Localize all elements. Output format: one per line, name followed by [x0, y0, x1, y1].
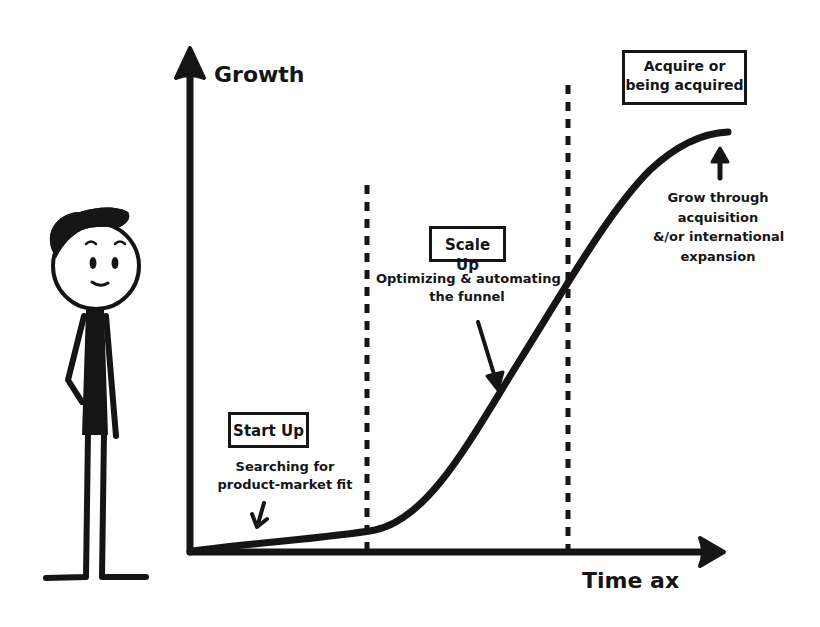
stage-startup-description: Searching for product-market fit — [200, 458, 370, 493]
eyebrow-right-icon — [115, 242, 125, 245]
stage-scaleup-description-line-1: Optimizing & automating — [376, 270, 558, 288]
leg-right-icon — [102, 433, 146, 577]
arm-left-icon — [68, 316, 84, 402]
stage-startup-title-box: Start Up — [228, 412, 309, 448]
stage-acquire-description-line-4: expansion — [653, 247, 783, 267]
stage-acquire-title-box: Acquire or being acquired — [622, 50, 747, 105]
arm-right-icon — [106, 316, 116, 436]
stage-scaleup-description: Optimizing & automating the funnel — [376, 270, 558, 305]
stage-acquire-title-line-2: being acquired — [625, 76, 744, 95]
stage-acquire-description-line-3: &/or international — [653, 227, 783, 247]
stage-acquire-description-line-2: acquisition — [653, 208, 783, 228]
acquire-arrow-icon — [712, 148, 728, 178]
x-axis-label: Time ax — [582, 566, 679, 596]
stick-figure-illustration — [46, 208, 146, 579]
scaleup-arrow-icon — [478, 322, 503, 390]
stage-startup-description-line-2: product-market fit — [200, 476, 370, 494]
stage-startup-title: Start Up — [233, 422, 304, 440]
y-axis-label: Growth — [214, 60, 305, 90]
y-axis-arrowhead-icon — [176, 48, 204, 78]
x-axis-arrowhead-icon — [700, 538, 724, 566]
stage-acquire-description-line-1: Grow through — [653, 188, 783, 208]
stage-scaleup-title-box: Scale Up — [429, 226, 506, 262]
eye-right-icon — [112, 257, 119, 269]
leg-left-icon — [46, 433, 88, 578]
startup-arrow-icon — [252, 503, 267, 527]
smile-icon — [92, 282, 108, 285]
stage-scaleup-description-line-2: the funnel — [376, 288, 558, 306]
eyebrow-left-icon — [86, 242, 96, 245]
eye-left-icon — [90, 257, 97, 269]
stage-startup-description-line-1: Searching for — [200, 458, 370, 476]
stage-acquire-description: Grow through acquisition &/or internatio… — [653, 188, 783, 266]
stage-acquire-title-line-1: Acquire or — [625, 57, 744, 76]
